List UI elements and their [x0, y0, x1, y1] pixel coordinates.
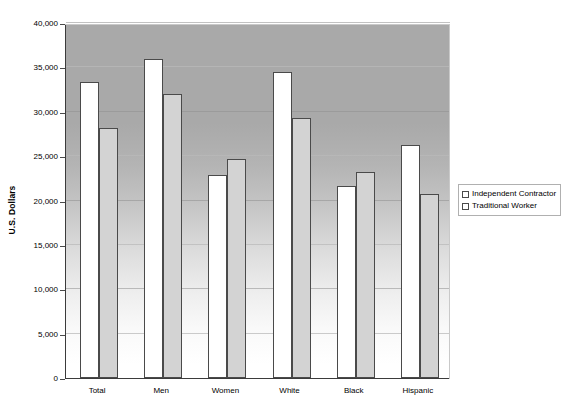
gridline-10000: [66, 288, 450, 289]
gridline-35000: [66, 66, 450, 67]
x-axis-label-men: Men: [129, 386, 193, 395]
bar: [420, 194, 439, 378]
y-tick-label-10000: 10,000: [8, 285, 58, 294]
y-tick-label-30000: 30,000: [8, 108, 58, 117]
legend-item[interactable]: Independent Contractor: [462, 188, 556, 200]
bar: [99, 128, 118, 378]
plot-area: [65, 24, 450, 379]
legend-label: Traditional Worker: [472, 201, 537, 211]
y-tick-mark-35000: [60, 68, 65, 69]
legend-label: Independent Contractor: [472, 189, 556, 199]
x-axis-label-black: Black: [322, 386, 386, 395]
x-axis-label-hispanic: Hispanic: [386, 386, 450, 395]
y-tick-label-0: 0: [8, 374, 58, 383]
y-tick-mark-15000: [60, 246, 65, 247]
legend-swatch-icon: [462, 203, 469, 210]
x-axis-label-women: Women: [193, 386, 257, 395]
bar: [273, 72, 292, 378]
y-tick-mark-20000: [60, 202, 65, 203]
y-tick-label-15000: 15,000: [8, 241, 58, 250]
gridline-5000: [66, 333, 450, 334]
bar-chart: U.S. Dollars 05,00010,00015,00020,00025,…: [0, 0, 584, 420]
bar: [227, 159, 246, 378]
bar: [356, 172, 375, 378]
y-tick-mark-10000: [60, 290, 65, 291]
y-tick-mark-40000: [60, 24, 65, 25]
gridline-20000: [66, 200, 450, 201]
y-axis-title: U.S. Dollars: [7, 150, 23, 270]
y-tick-mark-30000: [60, 113, 65, 114]
y-tick-mark-5000: [60, 335, 65, 336]
bar: [163, 94, 182, 378]
gridline-30000: [66, 111, 450, 112]
gridline-40000: [66, 22, 450, 23]
bar: [292, 118, 311, 378]
bar: [208, 175, 227, 378]
legend-item[interactable]: Traditional Worker: [462, 200, 556, 212]
chart-legend: Independent ContractorTraditional Worker: [458, 184, 561, 216]
y-tick-label-5000: 5,000: [8, 330, 58, 339]
bar: [144, 59, 163, 379]
bar: [80, 82, 99, 378]
y-tick-label-25000: 25,000: [8, 152, 58, 161]
bar: [401, 145, 420, 378]
gridline-25000: [66, 155, 450, 156]
y-tick-label-40000: 40,000: [8, 19, 58, 28]
gridline-15000: [66, 244, 450, 245]
y-tick-mark-25000: [60, 157, 65, 158]
y-tick-label-20000: 20,000: [8, 197, 58, 206]
legend-swatch-icon: [462, 191, 469, 198]
bar: [337, 186, 356, 378]
y-tick-label-35000: 35,000: [8, 63, 58, 72]
x-axis-label-white: White: [258, 386, 322, 395]
x-axis-label-total: Total: [65, 386, 129, 395]
y-tick-mark-0: [60, 379, 65, 380]
